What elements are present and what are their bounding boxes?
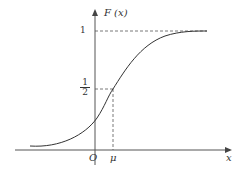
y-axis-label: F (x)	[104, 8, 128, 18]
cdf-curve	[30, 31, 207, 146]
x-axis-label: x	[226, 153, 232, 163]
cdf-diagram: F (x) x O μ 1 1 2	[0, 0, 240, 175]
mu-label: μ	[110, 153, 117, 163]
tick-one-label: 1	[80, 26, 86, 35]
tick-half-fraction: 1 2	[80, 78, 90, 97]
fraction-denominator: 2	[80, 88, 90, 97]
y-axis-arrow-icon	[92, 9, 98, 16]
origin-label: O	[89, 153, 97, 163]
diagram-canvas	[0, 0, 240, 175]
